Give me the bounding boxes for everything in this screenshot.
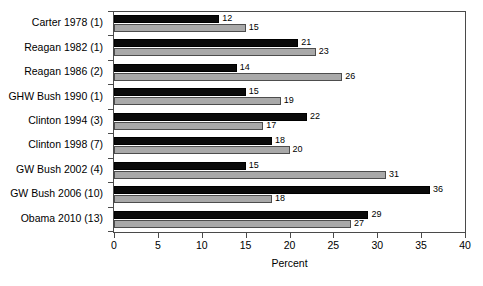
bar-value-label: 27 bbox=[354, 219, 364, 228]
bar-value-label: 18 bbox=[275, 136, 285, 145]
bar-value-label: 29 bbox=[371, 210, 381, 219]
bar-group: 1519 bbox=[114, 85, 465, 109]
bar-series-gray bbox=[114, 48, 316, 56]
bar-series-black bbox=[114, 211, 368, 219]
y-axis-category-labels: Carter 1978 (1)Reagan 1982 (1)Reagan 198… bbox=[0, 11, 109, 233]
x-tick bbox=[246, 233, 247, 238]
y-axis-label: Clinton 1998 (7) bbox=[28, 139, 103, 150]
x-tick bbox=[465, 233, 466, 238]
bar-series-black bbox=[114, 113, 307, 121]
x-tick-label: 35 bbox=[415, 240, 427, 251]
bar-value-label: 17 bbox=[266, 121, 276, 130]
y-axis-label: Reagan 1982 (1) bbox=[24, 42, 103, 53]
bar-group: 2123 bbox=[114, 36, 465, 60]
bar-series-gray bbox=[114, 195, 272, 203]
x-tick bbox=[202, 233, 203, 238]
y-axis-label: Reagan 1986 (2) bbox=[24, 66, 103, 77]
x-tick-label: 0 bbox=[111, 240, 117, 251]
x-tick bbox=[377, 233, 378, 238]
bar-series-black bbox=[114, 186, 430, 194]
x-tick-label: 15 bbox=[240, 240, 252, 251]
x-tick-label: 30 bbox=[371, 240, 383, 251]
bar-value-label: 12 bbox=[222, 14, 232, 23]
bar-series-black bbox=[114, 137, 272, 145]
x-tick-label: 40 bbox=[459, 240, 471, 251]
bar-series-gray bbox=[114, 220, 351, 228]
plot-area: 121521231426151922171820153136182927 bbox=[113, 11, 466, 233]
bar-series-gray bbox=[114, 122, 263, 130]
bar-group: 1531 bbox=[114, 159, 465, 183]
y-axis-label: GW Bush 2002 (4) bbox=[16, 164, 103, 175]
y-axis-label: GHW Bush 1990 (1) bbox=[8, 91, 103, 102]
y-axis-label: Carter 1978 (1) bbox=[32, 17, 103, 28]
x-tick bbox=[158, 233, 159, 238]
bar-value-label: 18 bbox=[275, 194, 285, 203]
bar-group: 3618 bbox=[114, 183, 465, 207]
bar-value-label: 20 bbox=[293, 145, 303, 154]
bar-value-label: 31 bbox=[389, 170, 399, 179]
bar-value-label: 14 bbox=[240, 63, 250, 72]
y-axis-label: GW Bush 2006 (10) bbox=[10, 188, 103, 199]
x-tick bbox=[290, 233, 291, 238]
bar-value-label: 19 bbox=[284, 96, 294, 105]
x-axis-title: Percent bbox=[113, 258, 466, 269]
bar-series-black bbox=[114, 39, 298, 47]
bar-group: 1215 bbox=[114, 12, 465, 36]
bar-series-gray bbox=[114, 171, 386, 179]
bar-group: 1820 bbox=[114, 134, 465, 158]
x-tick bbox=[421, 233, 422, 238]
bar-value-label: 21 bbox=[301, 38, 311, 47]
bar-series-black bbox=[114, 64, 237, 72]
x-tick bbox=[114, 233, 115, 238]
y-axis-label: Clinton 1994 (3) bbox=[28, 115, 103, 126]
bar-group: 2217 bbox=[114, 110, 465, 134]
bar-value-label: 22 bbox=[310, 112, 320, 121]
bar-group: 1426 bbox=[114, 61, 465, 85]
x-tick-label: 5 bbox=[155, 240, 161, 251]
x-tick-label: 20 bbox=[284, 240, 296, 251]
bar-chart: Carter 1978 (1)Reagan 1982 (1)Reagan 198… bbox=[0, 0, 483, 286]
bar-value-label: 36 bbox=[433, 185, 443, 194]
bar-series-black bbox=[114, 88, 246, 96]
x-tick bbox=[333, 233, 334, 238]
bar-series-gray bbox=[114, 24, 246, 32]
bar-value-label: 26 bbox=[345, 72, 355, 81]
bar-series-black bbox=[114, 15, 219, 23]
bar-group: 2927 bbox=[114, 208, 465, 232]
bar-series-gray bbox=[114, 73, 342, 81]
bar-value-label: 15 bbox=[249, 161, 259, 170]
bar-series-gray bbox=[114, 97, 281, 105]
bar-series-black bbox=[114, 162, 246, 170]
bar-value-label: 23 bbox=[319, 47, 329, 56]
x-tick-label: 10 bbox=[196, 240, 208, 251]
bar-series-gray bbox=[114, 146, 290, 154]
x-tick-label: 25 bbox=[328, 240, 340, 251]
bar-value-label: 15 bbox=[249, 23, 259, 32]
y-axis-label: Obama 2010 (13) bbox=[21, 213, 103, 224]
bar-value-label: 15 bbox=[249, 87, 259, 96]
